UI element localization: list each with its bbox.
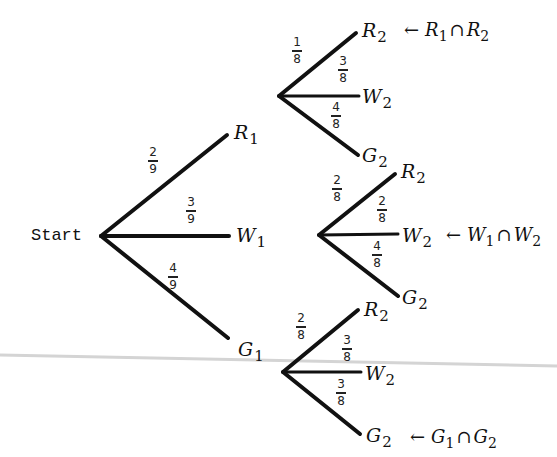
- numerator: 4: [332, 101, 340, 113]
- denominator: 8: [293, 53, 301, 65]
- event-letter: G: [402, 286, 417, 308]
- node-w1-r2: R2: [401, 162, 426, 186]
- numerator: 2: [297, 312, 305, 324]
- numerator: 3: [337, 378, 345, 390]
- branch-r1-g2: [279, 96, 358, 155]
- denominator: 8: [332, 118, 340, 130]
- denominator: 9: [149, 163, 157, 175]
- intersection-expression: W1∩W2: [467, 226, 541, 248]
- branch-w1-w2: [319, 234, 398, 235]
- denominator: 8: [378, 212, 386, 224]
- event-letter: W: [402, 224, 422, 246]
- event-letter: G: [362, 144, 377, 166]
- numerator: 2: [333, 174, 341, 186]
- denominator: 9: [169, 279, 177, 291]
- prob-r1: 29: [148, 146, 158, 175]
- node-g1-r2: R2: [364, 300, 389, 324]
- numerator: 2: [378, 195, 386, 207]
- node-r1-g2: G2: [362, 146, 388, 170]
- branch-r1: [101, 135, 227, 236]
- event-letter: G: [366, 424, 381, 446]
- intersection-expression: R1∩R2: [425, 21, 489, 43]
- start-node-label: Start: [31, 227, 82, 244]
- event-letter: R: [364, 298, 378, 320]
- stage-subscript: 1: [254, 347, 264, 365]
- event-letter: R: [362, 19, 376, 41]
- prob-g1: 49: [168, 262, 178, 291]
- node-w1: W1: [236, 226, 266, 250]
- prob-g1-w2: 38: [342, 334, 352, 363]
- left-arrow-icon: ←: [446, 226, 461, 244]
- probability-tree-diagram: Start R129W139G149R218←R1∩R2W238G248R228…: [0, 0, 557, 457]
- prob-r1-g2: 48: [331, 101, 341, 130]
- stage-subscript: 2: [378, 153, 388, 171]
- denominator: 9: [187, 213, 195, 225]
- stage-subscript: 2: [382, 433, 392, 451]
- prob-w1-w2: 28: [377, 195, 387, 224]
- node-r1-w2: W2: [362, 87, 392, 111]
- numerator: 2: [149, 146, 157, 158]
- stage-subscript: 2: [423, 233, 433, 251]
- intersection-expression: G1∩G2: [431, 428, 497, 450]
- intersection-icon: ∩: [456, 426, 471, 447]
- numerator: 3: [339, 55, 347, 67]
- annotation-w1-intersection: ←W1∩W2: [446, 226, 541, 248]
- denominator: 8: [297, 329, 305, 341]
- left-arrow-icon: ←: [404, 21, 419, 39]
- branch-g1: [101, 236, 228, 338]
- prob-w1-r2: 28: [332, 174, 342, 203]
- node-r1: R1: [234, 123, 259, 147]
- event-letter: R: [401, 160, 415, 182]
- intersection-icon: ∩: [497, 224, 512, 245]
- numerator: 3: [343, 334, 351, 346]
- node-g1-g2: G2: [366, 426, 392, 450]
- node-r1-r2: R2: [362, 21, 387, 45]
- event-letter: W: [236, 224, 256, 246]
- numerator: 4: [373, 240, 381, 252]
- numerator: 4: [169, 262, 177, 274]
- stage-subscript: 1: [249, 130, 259, 148]
- event-letter: W: [362, 85, 382, 107]
- denominator: 8: [343, 351, 351, 363]
- left-arrow-icon: ←: [410, 428, 425, 446]
- prob-r1-r2: 18: [292, 36, 302, 65]
- denominator: 8: [373, 257, 381, 269]
- stage-subscript: 2: [379, 307, 389, 325]
- stage-subscript: 2: [418, 295, 428, 313]
- stage-subscript: 2: [416, 169, 426, 187]
- prob-r1-w2: 38: [338, 55, 348, 84]
- annotation-g1-intersection: ←G1∩G2: [410, 428, 497, 450]
- scan-line: [0, 355, 557, 366]
- node-w1-w2: W2: [402, 226, 432, 250]
- event-letter: G: [238, 338, 253, 360]
- node-g1: G1: [238, 340, 264, 364]
- event-letter: W: [365, 362, 385, 384]
- event-letter: R: [234, 121, 248, 143]
- stage-subscript: 1: [257, 233, 267, 251]
- denominator: 8: [339, 72, 347, 84]
- stage-subscript: 2: [377, 28, 387, 46]
- branch-w1-g2: [319, 235, 398, 296]
- prob-w1-g2: 48: [372, 240, 382, 269]
- intersection-icon: ∩: [450, 19, 465, 40]
- prob-g1-g2: 38: [336, 378, 346, 407]
- node-w1-g2: G2: [402, 288, 428, 312]
- prob-w1: 39: [186, 196, 196, 225]
- stage-subscript: 2: [383, 94, 393, 112]
- annotation-r1-r2: ←R1∩R2: [404, 21, 489, 43]
- denominator: 8: [337, 395, 345, 407]
- node-g1-w2: W2: [365, 364, 395, 388]
- prob-g1-r2: 28: [296, 312, 306, 341]
- numerator: 3: [187, 196, 195, 208]
- denominator: 8: [333, 191, 341, 203]
- stage-subscript: 2: [386, 371, 396, 389]
- numerator: 1: [293, 36, 301, 48]
- branch-g1-g2: [283, 372, 360, 434]
